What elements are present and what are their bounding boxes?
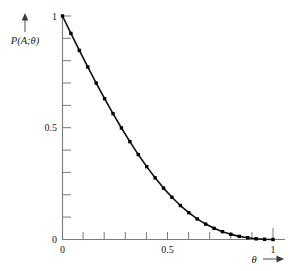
data-point [111, 112, 114, 115]
y-axis-tick-label-0_5: 0.5 [45, 122, 58, 133]
data-point [170, 196, 173, 199]
data-point [103, 97, 106, 100]
data-curve [63, 16, 274, 240]
data-point [204, 222, 207, 225]
data-point [229, 233, 232, 236]
data-point [187, 211, 190, 214]
data-point [69, 32, 72, 35]
x-axis-arrow-icon [263, 256, 284, 263]
data-point [120, 126, 123, 129]
y-axis-tick-label-1: 1 [52, 11, 57, 22]
y-axis-tick-label-0: 0 [52, 234, 57, 245]
data-point [153, 176, 156, 179]
data-point [145, 165, 148, 168]
data-point [128, 140, 131, 143]
data-point [162, 186, 165, 189]
data-point [254, 237, 257, 240]
plot-area: 1 0.5 0 0 0.5 1 P(A;θ) θ [0, 0, 303, 271]
x-axis-tick-label-1: 1 [271, 244, 276, 255]
x-axis-tick-label-0_5: 0.5 [161, 244, 174, 255]
data-point [221, 230, 224, 233]
data-point [137, 153, 140, 156]
data-point [212, 227, 215, 230]
chart-figure: 1 0.5 0 0 0.5 1 P(A;θ) θ [0, 0, 303, 271]
y-axis-title: P(A;θ) [10, 35, 40, 47]
x-axis-tick-label-0: 0 [60, 244, 65, 255]
data-point [86, 65, 89, 68]
data-point [94, 81, 97, 84]
y-axis-arrow-icon [22, 13, 29, 32]
data-point [179, 204, 182, 207]
y-axis-ticks [63, 16, 72, 217]
data-point [78, 49, 81, 52]
data-point [271, 238, 274, 241]
data-markers [61, 14, 275, 241]
x-axis-title: θ [251, 254, 256, 265]
data-point [246, 236, 249, 239]
data-point [196, 217, 199, 220]
data-point [238, 235, 241, 238]
data-point [263, 238, 266, 241]
data-point [61, 14, 64, 17]
